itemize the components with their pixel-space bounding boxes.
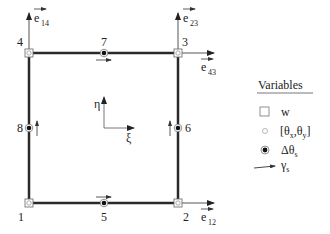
corner-nodes	[25, 49, 182, 207]
node-5	[100, 199, 108, 207]
open-square-icon	[260, 107, 269, 116]
node-label-5: 5	[101, 210, 107, 224]
node-3	[174, 49, 182, 57]
xi-label: ξ	[126, 131, 132, 145]
legend-title: Variables	[258, 78, 303, 92]
vector-label-e43: e 43	[201, 59, 216, 77]
small-circle-icon	[263, 129, 268, 134]
legend: Variables w [θx,θy] Δθs γs	[254, 78, 313, 174]
vector-e12-base: e	[201, 210, 206, 224]
vector-label-e12: e 12	[201, 209, 216, 227]
vector-e14-sub: 14	[41, 19, 49, 28]
vector-e23-base: e	[183, 11, 188, 25]
node-8	[25, 124, 33, 132]
node-4	[25, 49, 33, 57]
vector-e23-sub: 23	[190, 19, 198, 28]
node-label-8: 8	[17, 121, 23, 135]
vector-label-e23: e 23	[183, 9, 198, 28]
legend-item-delta-theta: Δθs	[261, 143, 298, 159]
eta-label: η	[94, 97, 100, 111]
node-1	[25, 199, 33, 207]
node-label-2: 2	[183, 210, 189, 224]
element-edges	[29, 53, 178, 203]
vector-e14-base: e	[34, 11, 39, 25]
vector-e43-base: e	[201, 60, 206, 74]
vector-e43-sub: 43	[208, 68, 216, 77]
node-label-6: 6	[185, 121, 191, 135]
arrow-icon	[254, 166, 275, 168]
legend-label-theta: [θx,θy]	[280, 124, 311, 140]
legend-label-gamma: γs	[280, 158, 289, 174]
local-axes: η ξ	[94, 97, 134, 145]
node-label-1: 1	[18, 210, 24, 224]
legend-item-theta: [θx,θy]	[263, 124, 311, 140]
vector-labels: e 14 e 23 e 43 e 12	[34, 9, 216, 227]
node-label-3: 3	[182, 35, 188, 49]
midside-nodes	[25, 49, 182, 207]
legend-item-gamma: γs	[254, 158, 289, 174]
node-labels: 1 2 3 4 5 6 7 8	[17, 35, 191, 224]
legend-item-w: w	[260, 105, 290, 119]
vector-e12-sub: 12	[208, 218, 216, 227]
gamma-arrows	[37, 60, 170, 197]
element-diagram: e 14 e 23 e 43 e 12	[0, 0, 330, 234]
node-7	[100, 49, 108, 57]
vector-label-e14: e 14	[34, 9, 49, 28]
node-label-4: 4	[17, 35, 23, 49]
node-2	[174, 199, 182, 207]
node-6	[174, 124, 182, 132]
node-label-7: 7	[101, 35, 107, 49]
legend-label-w: w	[281, 105, 290, 119]
legend-label-delta-theta: Δθs	[281, 143, 298, 159]
